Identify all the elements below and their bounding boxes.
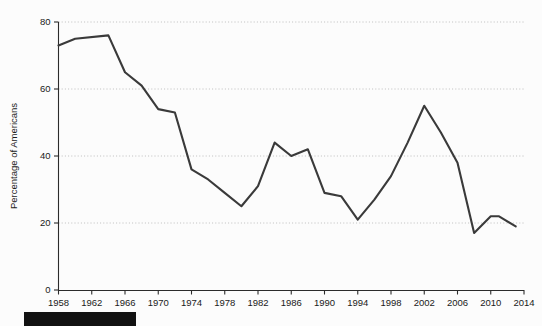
x-axis-tick-label: 1986 [281,297,302,308]
y-axis-tick-label: 0 [45,284,50,295]
x-axis-tick-label: 1958 [48,297,69,308]
y-axis-tick-label: 60 [40,83,51,94]
chart-background [0,0,542,326]
x-axis-tick-label: 1970 [148,297,169,308]
line-chart: 020406080 195819621966197019741978198219… [0,0,542,326]
x-axis-tick-label: 1990 [314,297,335,308]
x-axis-tick-label: 1974 [181,297,202,308]
x-axis-tick-label: 2010 [480,297,501,308]
y-axis-title: Percentage of Americans [8,103,19,209]
redaction-bar [24,312,136,326]
y-axis-tick-label: 80 [40,16,51,27]
x-axis-tick-label: 1982 [247,297,268,308]
x-axis-tick-label: 2014 [513,297,534,308]
x-axis-tick-label: 2006 [447,297,468,308]
chart-figure: 020406080 195819621966197019741978198219… [0,0,542,326]
x-axis-tick-label: 1998 [380,297,401,308]
y-axis-tick-label: 20 [40,217,51,228]
x-axis-tick-label: 1966 [114,297,135,308]
y-axis-tick-label: 40 [40,150,51,161]
x-axis-tick-label: 1978 [214,297,235,308]
x-axis-tick-label: 1994 [347,297,368,308]
x-axis-tick-label: 2002 [414,297,435,308]
x-axis-tick-labels: 1958196219661970197419781982198619901994… [48,297,535,308]
x-axis-tick-label: 1962 [81,297,102,308]
